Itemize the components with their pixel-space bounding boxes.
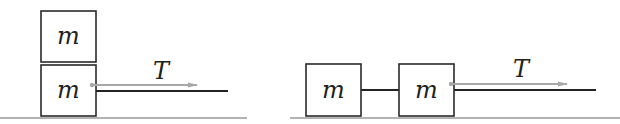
- top-block: m: [41, 11, 96, 62]
- left-panel: m m T: [0, 11, 247, 118]
- tension-label: T: [153, 57, 171, 85]
- mass-label: m: [415, 76, 438, 104]
- mass-label: m: [57, 22, 80, 50]
- physics-diagram: m m T m m T: [0, 0, 620, 124]
- bottom-block: m: [41, 65, 96, 116]
- mass-label: m: [57, 76, 80, 104]
- tension-label: T: [513, 55, 531, 83]
- left-block: m: [306, 64, 361, 116]
- right-panel: m m T: [290, 55, 620, 118]
- right-block: m: [399, 64, 454, 116]
- tension-arrow: [90, 83, 197, 87]
- tension-arrow: [449, 82, 567, 86]
- mass-label: m: [322, 76, 345, 104]
